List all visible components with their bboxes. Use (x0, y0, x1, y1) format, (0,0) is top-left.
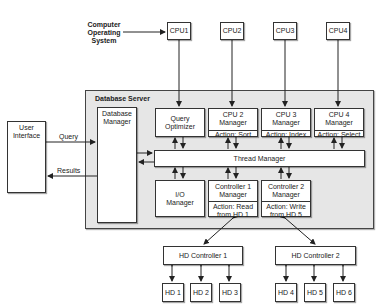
hd5-node: HD 5 (304, 283, 326, 302)
cpu4-node: CPU4 (326, 22, 350, 40)
thread-manager-node: Thread Manager (154, 150, 365, 167)
action-line: from HD 5 (262, 211, 310, 219)
cpu3-manager-node: CPU 3 Manager Action: Index (261, 108, 311, 137)
cpu-label: CPU4 (329, 27, 348, 35)
hd-controller-label: HD Controller 2 (291, 252, 339, 260)
os-label-line: System (86, 37, 122, 45)
query-optimizer-label-line: Optimizer (165, 123, 195, 131)
cpu3-node: CPU3 (273, 22, 297, 40)
query-optimizer-node: Query Optimizer (155, 108, 205, 137)
manager-name-line: CPU 4 (315, 111, 363, 119)
cpu-manager-action: Action: Index (262, 131, 310, 139)
cpu-label: CPU2 (223, 27, 242, 35)
hd6-node: HD 6 (333, 283, 355, 302)
query-flow-label: Query (59, 133, 78, 141)
operating-system-label: Computer Operating System (86, 21, 122, 45)
hd-controller-2-node: HD Controller 2 (275, 246, 356, 265)
query-optimizer-label-line: Query (170, 115, 189, 123)
action-line: Action: Write (262, 203, 310, 211)
hd1-node: HD 1 (162, 283, 184, 302)
hd3-node: HD 3 (219, 283, 241, 302)
cpu2-node: CPU2 (220, 22, 244, 40)
hd-controller-label: HD Controller 1 (179, 252, 227, 260)
action-line: Action: Read (209, 203, 257, 211)
manager-name-line: Manager (209, 191, 257, 199)
cpu-manager-name: CPU 2 Manager (209, 109, 257, 131)
cpu4-manager-node: CPU 4 Manager Action: Select (314, 108, 364, 137)
cpu-label: CPU3 (276, 27, 295, 35)
action-line: from HD 1 (209, 211, 257, 219)
manager-name-line: Manager (262, 119, 310, 127)
manager-name-line: Manager (262, 191, 310, 199)
db-manager-label-line: Database (98, 110, 136, 118)
io-manager-label-line: Manager (166, 199, 194, 207)
disk-label: HD 4 (278, 289, 294, 297)
db-manager-label-line: Manager (98, 118, 136, 126)
ui-label-line: User (8, 124, 45, 132)
manager-name-line: Controller 1 (209, 183, 257, 191)
controller-manager-name: Controller 1 Manager (209, 181, 257, 202)
ui-label-line: Interface (8, 132, 45, 140)
manager-name-line: CPU 3 (262, 111, 310, 119)
os-label-line: Computer (86, 21, 122, 29)
cpu2-manager-node: CPU 2 Manager Action: Sort (208, 108, 258, 137)
results-flow-label: Results (57, 167, 80, 175)
controller-manager-action: Action: Write from HD 5 (262, 202, 310, 219)
disk-label: HD 6 (336, 289, 352, 297)
cpu-manager-action: Action: Sort (209, 131, 257, 139)
manager-name-line: Manager (315, 119, 363, 127)
disk-label: HD 3 (222, 289, 238, 297)
cpu-manager-name: CPU 3 Manager (262, 109, 310, 131)
controller2-manager-node: Controller 2 Manager Action: Write from … (261, 180, 311, 217)
controller1-manager-node: Controller 1 Manager Action: Read from H… (208, 180, 258, 217)
manager-name-line: Controller 2 (262, 183, 310, 191)
cpu-manager-name: CPU 4 Manager (315, 109, 363, 131)
controller-manager-name: Controller 2 Manager (262, 181, 310, 202)
cpu1-node: CPU1 (167, 22, 191, 40)
manager-name-line: CPU 2 (209, 111, 257, 119)
os-label-line: Operating (86, 29, 122, 37)
disk-label: HD 5 (307, 289, 323, 297)
cpu-manager-action: Action: Select (315, 131, 363, 139)
disk-label: HD 2 (193, 289, 209, 297)
hd4-node: HD 4 (275, 283, 297, 302)
database-manager-node: Database Manager (97, 107, 137, 223)
io-manager-label-line: I/O (175, 191, 184, 199)
disk-label: HD 1 (165, 289, 181, 297)
hd2-node: HD 2 (190, 283, 212, 302)
manager-name-line: Manager (209, 119, 257, 127)
cpu-label: CPU1 (170, 27, 189, 35)
io-manager-node: I/O Manager (155, 180, 205, 217)
thread-manager-label: Thread Manager (234, 155, 286, 163)
user-interface-node: User Interface (7, 121, 46, 193)
controller-manager-action: Action: Read from HD 1 (209, 202, 257, 219)
hd-controller-1-node: HD Controller 1 (163, 246, 243, 265)
